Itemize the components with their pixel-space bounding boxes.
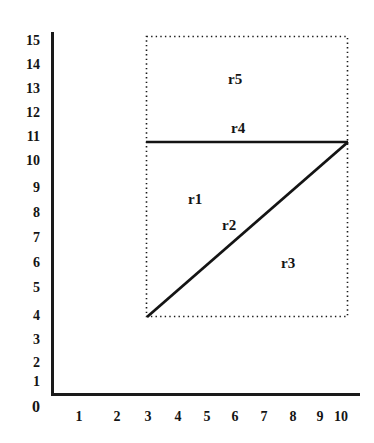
region-label-r3: r3 bbox=[281, 256, 295, 271]
region-label-r1: r1 bbox=[188, 192, 202, 207]
region-diagram-figure: 15 14 13 12 11 10 9 8 7 6 5 4 3 2 1 0 1 … bbox=[0, 0, 374, 443]
bounding-rectangle bbox=[147, 37, 348, 317]
region-label-r4: r4 bbox=[231, 121, 245, 136]
region-label-r5: r5 bbox=[228, 72, 242, 87]
region-label-r2: r2 bbox=[222, 218, 236, 233]
diagonal-divider-line bbox=[147, 142, 348, 317]
plot-geometry bbox=[0, 0, 374, 443]
